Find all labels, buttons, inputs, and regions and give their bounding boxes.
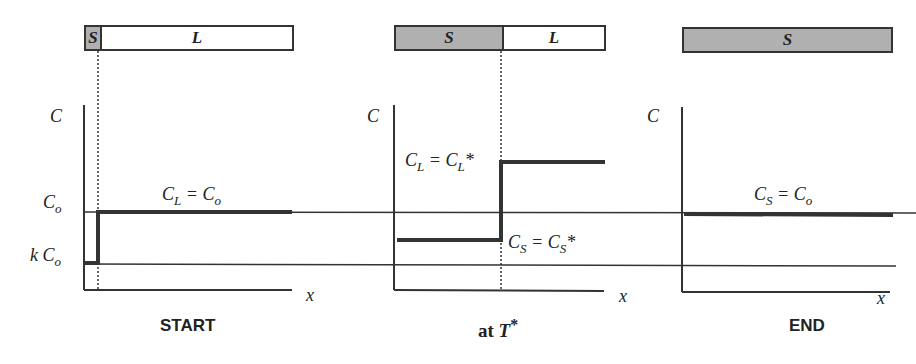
start-caption: START xyxy=(160,316,215,336)
cl-co-label: CL = Co xyxy=(162,184,221,209)
y-axis-label: C xyxy=(647,106,659,127)
y-axis-label: C xyxy=(50,106,62,127)
cs-co-label: CS = Co xyxy=(754,184,812,209)
x-axis-label: x xyxy=(877,288,885,309)
at-t-caption: at T* xyxy=(478,316,518,342)
y-axis-label: C xyxy=(367,106,379,127)
co-level-label: Co xyxy=(43,192,62,217)
cs-star-label: CS = CS* xyxy=(508,232,575,257)
x-axis-label: x xyxy=(306,285,314,306)
x-axis-label: x xyxy=(619,286,627,307)
concentration-plots xyxy=(0,0,916,364)
cl-star-label: CL = CL* xyxy=(405,150,474,175)
kco-level-label: k Co xyxy=(30,245,61,270)
end-caption: END xyxy=(789,316,825,336)
